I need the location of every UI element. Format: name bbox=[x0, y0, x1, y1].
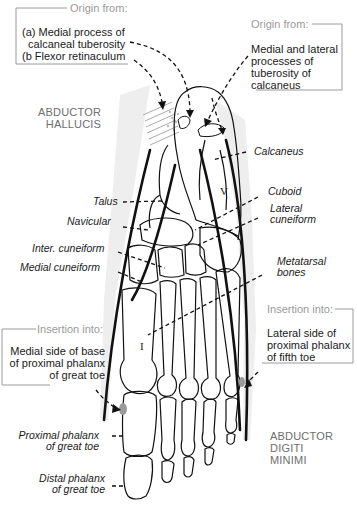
insertion-fifth-toe-mark bbox=[239, 377, 245, 387]
insertion-left-title: Insertion into: bbox=[37, 323, 103, 335]
insertion-right-text: Lateral side of proximal phalanx of fift… bbox=[267, 327, 350, 363]
label-calcaneus: Calcaneus bbox=[254, 146, 304, 157]
label-proximal-phalanx-great-toe: Proximal phalanx of great toe bbox=[5, 430, 99, 452]
distal-phalanx-great-toe bbox=[124, 455, 153, 499]
abductor-digiti-minimi-label: ABDUCTOR DIGITI MINIMI bbox=[270, 430, 333, 466]
label-lateral-cuneiform: Lateral cuneiform bbox=[270, 203, 316, 225]
metatarsal-3 bbox=[179, 279, 198, 400]
navicular-outline bbox=[140, 218, 193, 246]
origin-left-title: Origin from: bbox=[70, 2, 127, 14]
label-metatarsal-bones: Metatarsal bones bbox=[277, 256, 326, 278]
origin-right-text: Medial and lateral processes of tuberosi… bbox=[251, 43, 338, 91]
origin-left-text: (a) Medial process of calcaneal tuberosi… bbox=[22, 26, 125, 62]
abductor-hallucis-tendon-inner bbox=[132, 165, 175, 300]
label-distal-phalanx-great-toe: Distal phalanx of great toe bbox=[5, 473, 105, 495]
label-cuboid: Cuboid bbox=[268, 186, 301, 197]
insertion-right-title: Insertion into: bbox=[267, 303, 333, 315]
numeral-first-metatarsal: I bbox=[140, 340, 144, 352]
label-navicular: Navicular bbox=[67, 216, 111, 227]
abductor-hallucis-label: ABDUCTOR HALLUCIS bbox=[38, 106, 101, 130]
inter-cuneiform-outline bbox=[158, 247, 184, 277]
numeral-fifth-metatarsal: V bbox=[220, 185, 228, 197]
label-talus: Talus bbox=[93, 196, 118, 207]
origin-right-title: Origin from: bbox=[251, 18, 308, 30]
abductor-digiti-minimi-shade bbox=[215, 100, 256, 440]
metatarsal-2 bbox=[157, 281, 176, 397]
label-medial-cuneiform: Medial cuneiform bbox=[20, 262, 100, 273]
abductor-hallucis-shade bbox=[100, 85, 150, 420]
insertion-great-toe-mark bbox=[119, 403, 127, 415]
label-inter-cuneiform: Inter. cuneiform bbox=[32, 243, 105, 254]
metatarsal-4 bbox=[200, 277, 221, 400]
insertion-left-text: Medial side of base of proximal phalanx … bbox=[5, 345, 105, 381]
proximal-phalanx-great-toe bbox=[123, 391, 157, 456]
metatarsal-1 bbox=[120, 288, 157, 394]
